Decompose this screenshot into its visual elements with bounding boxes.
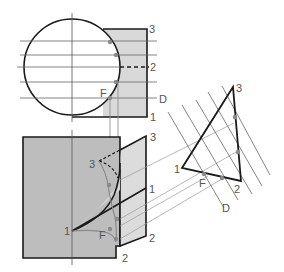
intersection-diagram: 3 2 D 1 F 3 3 1 1 F — [0, 0, 284, 272]
aux-label-3: 3 — [236, 82, 242, 94]
label-1-left: 1 — [64, 225, 70, 237]
aux-label-D: D — [222, 202, 230, 214]
aux-label-2: 2 — [234, 183, 240, 195]
aux-label-F: F — [199, 177, 206, 189]
aux-label-1: 1 — [174, 163, 180, 175]
label-F: F — [100, 87, 107, 99]
label-2-right: 2 — [149, 232, 155, 244]
label-2-bottom: 2 — [122, 252, 128, 264]
label-D: D — [159, 93, 167, 105]
label-3-left: 3 — [89, 158, 95, 170]
label-F-front: F — [99, 229, 106, 241]
label-1: 1 — [150, 111, 156, 123]
label-3-right: 3 — [150, 131, 156, 143]
label-1-right: 1 — [149, 183, 155, 195]
label-3: 3 — [149, 23, 155, 35]
front-view: 3 3 1 1 F 2 2 — [23, 130, 156, 265]
label-2: 2 — [150, 61, 156, 73]
